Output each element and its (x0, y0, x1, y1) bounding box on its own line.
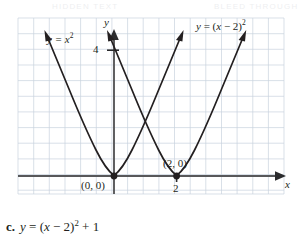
label-x-axis: x (285, 179, 290, 190)
label-y-axis: y (104, 17, 109, 28)
label-point-two-zero: (2, 0) (163, 158, 187, 169)
point-marker-origin (111, 173, 118, 180)
graph-plot-area: y = x2 y = (x − 2)2 y x 4 2 (0, 0) (2, 0… (0, 0, 302, 213)
label-left-curve: y = x2 (47, 32, 73, 45)
label-right-curve: y = (x − 2)2 (196, 19, 246, 32)
graph-svg (0, 0, 302, 213)
caption-equation: y = (x − 2)2 + 1 (20, 219, 99, 234)
label-x-tick-2: 2 (173, 183, 179, 194)
label-point-origin: (0, 0) (81, 180, 105, 191)
label-y-tick-4: 4 (93, 44, 99, 55)
point-marker-two-zero (173, 173, 180, 180)
figure-caption: c.y = (x − 2)2 + 1 (6, 218, 99, 235)
figure-parabola-translation: HIDDEN TEXT BLEED THROUGH (0, 0, 302, 243)
caption-letter: c. (6, 219, 15, 234)
